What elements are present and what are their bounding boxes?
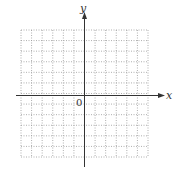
y-axis-label: y — [79, 2, 87, 15]
coordinate-plane: x y 0 — [0, 0, 176, 176]
x-axis-label: x — [166, 89, 173, 102]
x-axis-arrow-icon — [158, 93, 165, 98]
origin-label: 0 — [76, 97, 82, 108]
